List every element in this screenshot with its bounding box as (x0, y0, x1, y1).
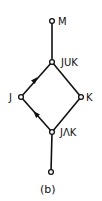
node-jnk (50, 130, 55, 135)
node-bottom (49, 170, 54, 175)
figure-caption: (b) (40, 183, 56, 196)
label-juk: JUK (60, 57, 78, 68)
label-k: K (86, 92, 93, 103)
label-m: M (58, 16, 67, 27)
label-j: J (8, 92, 12, 103)
node-k (79, 95, 84, 100)
edge-bottom-jnk (51, 132, 52, 172)
lattice-diagram: M JUK J K JΛK (b) (0, 0, 102, 201)
node-juk (50, 60, 55, 65)
label-jnk: JΛK (59, 127, 77, 138)
node-m (50, 19, 55, 24)
node-j (19, 95, 24, 100)
